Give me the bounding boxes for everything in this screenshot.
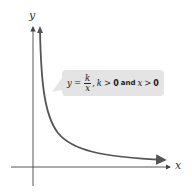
- equation-callout: y = k x , k > 0 and x > 0: [62, 70, 164, 96]
- eq-comma: ,: [92, 78, 95, 88]
- eq-zero-2: 0: [153, 79, 159, 88]
- eq-zero-1: 0: [113, 79, 119, 88]
- eq-gt-1: >: [104, 78, 111, 88]
- eq-y: y: [67, 78, 72, 88]
- curve-top-arrow-icon: [37, 26, 43, 33]
- eq-denominator: x: [85, 84, 90, 93]
- graph-canvas: [0, 0, 192, 196]
- eq-numerator: k: [84, 74, 91, 84]
- eq-k: k: [97, 78, 102, 88]
- eq-x: x: [137, 78, 142, 88]
- eq-fraction: k x: [84, 74, 91, 93]
- y-axis-label: y: [29, 9, 35, 22]
- graph-figure: y x y = k x , k > 0 and x > 0: [0, 0, 192, 196]
- callout-pointer: [52, 78, 62, 92]
- x-axis-label: x: [175, 159, 181, 172]
- eq-gt-2: >: [144, 78, 151, 88]
- eq-equals: =: [74, 78, 81, 88]
- eq-and: and: [121, 79, 136, 87]
